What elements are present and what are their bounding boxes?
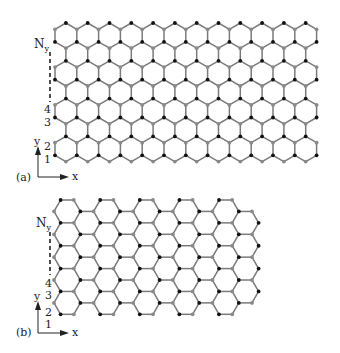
zigzag-lattice <box>53 21 318 163</box>
axis-y-label: y <box>33 290 41 303</box>
panel-label-a: (a) <box>16 171 31 184</box>
axis-x-label: x <box>72 326 79 339</box>
axis-y-label: y <box>33 135 41 148</box>
row-label-2: 2 <box>44 140 51 153</box>
row-label-ny: Ny <box>34 37 50 53</box>
panel-b-armchair-ribbon: Ny 4 3 2 1 y x (b) <box>16 198 261 339</box>
row-label-3: 3 <box>45 289 52 302</box>
armchair-lattice <box>52 198 260 316</box>
axis-x-label: x <box>72 170 79 183</box>
row-label-3: 3 <box>44 116 51 129</box>
row-label-4: 4 <box>44 103 51 116</box>
row-label-1: 1 <box>45 318 52 331</box>
row-label-ny: Ny <box>36 216 52 232</box>
row-label-1: 1 <box>44 153 51 166</box>
panel-label-b: (b) <box>16 326 32 339</box>
axis-arrows <box>35 301 69 336</box>
panel-a-zigzag-ribbon: Ny 4 3 2 1 y x (a) <box>16 21 319 184</box>
graphene-ribbon-figure: Ny 4 3 2 1 y x (a) Ny 4 3 2 1 y x (b) <box>0 0 340 353</box>
axis-arrows <box>35 146 69 180</box>
